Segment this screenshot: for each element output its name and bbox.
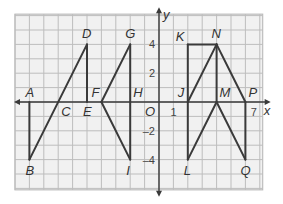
point-label-P: P [248,85,257,100]
point-label-E: E [83,104,92,119]
point-label-H: H [133,85,143,100]
y-axis-arrow-up-icon [156,7,162,13]
point-label-C: C [61,104,71,119]
y-tick-label: –2 [143,125,155,137]
y-axis-arrow-down-icon [156,191,162,197]
point-label-I: I [126,163,130,178]
x-tick-label: 1 [170,106,176,118]
point-label-G: G [125,26,135,41]
point-label-F: F [91,85,100,100]
coordinate-grid-diagram: Oxy1742–2–4 ABCDEFGHIJKNMPLQ [0,0,283,204]
point-label-D: D [82,26,91,41]
y-tick-label: 4 [149,38,155,50]
x-axis-label: x [263,103,271,118]
point-label-Q: Q [240,163,250,178]
y-tick-label: –4 [143,154,155,166]
point-label-B: B [25,163,34,178]
point-label-K: K [176,29,186,44]
point-label-M: M [220,85,231,100]
point-label-J: J [177,85,185,100]
origin-label: O [145,104,155,119]
point-label-L: L [184,163,191,178]
y-tick-label: 2 [149,67,155,79]
point-label-A: A [24,85,34,100]
point-label-N: N [212,26,222,41]
x-tick-label: 7 [251,106,257,118]
